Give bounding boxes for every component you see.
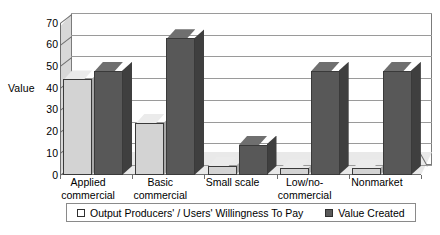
bar-face [239,145,268,175]
y-tick-label-60: 60 [36,39,58,50]
bar-face [352,168,381,175]
x-category-label-4: Low/no- commercial [269,176,341,201]
bar-chart: Value 706050403020100 Applied commercial… [0,0,440,235]
legend-entry-1[interactable]: Output Producers' / Users' Willingness T… [77,207,303,219]
gridline-60 [71,35,432,36]
legend-swatch-dark-icon [325,209,333,217]
legend-entry-2[interactable]: Value Created [325,207,404,219]
chart-legend: Output Producers' / Users' Willingness T… [66,203,416,222]
y-tick-label-30: 30 [36,104,58,115]
bar-face [135,123,164,175]
gridline-50 [71,56,432,57]
bar-face [311,71,340,175]
bar-wtp-3 [208,166,237,175]
legend-swatch-light-icon [77,209,85,217]
bar-wtp-1 [63,79,92,175]
bar-face [383,71,412,175]
bar-value-created-4 [311,71,340,175]
y-tick-label-50: 50 [36,61,58,72]
legend-label-1: Output Producers' / Users' Willingness T… [90,207,303,219]
x-category-label-2: Basic commercial [124,176,196,201]
bar-value-created-2 [166,38,195,175]
bar-side [411,62,421,175]
y-tick-label-40: 40 [36,83,58,94]
bar-value-created-3 [239,145,268,175]
bar-value-created-1 [94,71,123,175]
x-tick-5 [421,175,422,179]
bar-face [94,71,123,175]
bar-face [280,168,309,175]
x-category-label-5: Nonmarket [341,176,413,189]
bar-face [166,38,195,175]
bar-side [122,62,132,175]
bar-side [194,29,204,175]
y-tick-label-20: 20 [36,126,58,137]
x-category-label-1: Applied commercial [52,176,124,201]
bar-face [63,79,92,175]
y-tick-label-70: 70 [36,18,58,29]
plot-floor-right-edge [420,152,433,175]
x-category-label-3: Small scale [196,176,268,189]
gridline-70 [71,13,432,14]
bar-value-created-5 [383,71,412,175]
y-tick-label-10: 10 [36,148,58,159]
bar-wtp-2 [135,123,164,175]
bar-face [208,166,237,175]
bar-wtp-4 [280,168,309,175]
legend-label-2: Value Created [338,207,404,219]
bar-wtp-5 [352,168,381,175]
plot-area [60,13,432,175]
bar-side [339,62,349,175]
